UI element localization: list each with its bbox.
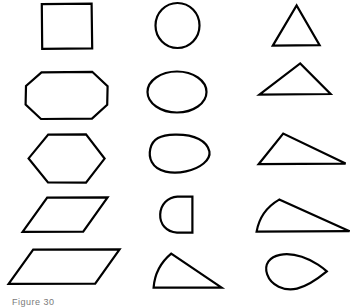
- shape-grid-canvas: [0, 0, 362, 308]
- shape-d-shape: [160, 197, 192, 233]
- shape-circle: [156, 3, 200, 48]
- shape-square: [42, 4, 92, 49]
- shape-teardrop-right: [266, 254, 327, 289]
- shape-flat-parallelogram: [9, 249, 120, 283]
- shape-sail-curved-left-small: [154, 254, 222, 288]
- shape-ellipse: [148, 72, 207, 113]
- shape-long-scalene-triangle: [259, 134, 346, 165]
- shape-egg-right: [150, 135, 210, 173]
- shape-octagon: [26, 72, 108, 119]
- shape-isosceles-triangle: [273, 5, 320, 45]
- shape-steep-parallelogram: [23, 197, 108, 231]
- shape-wide-flat-triangle: [259, 63, 330, 94]
- figure-root: Figure 30: [0, 0, 362, 308]
- shape-sail-curved-left: [257, 200, 350, 232]
- shape-hexagon: [29, 134, 105, 182]
- figure-caption: Figure 30: [12, 297, 55, 308]
